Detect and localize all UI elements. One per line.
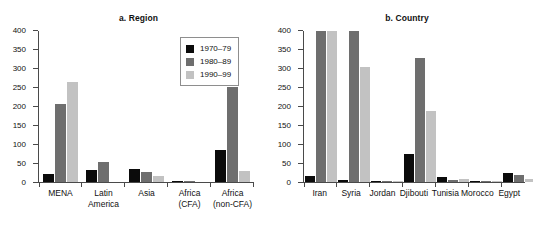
y-tick-label: 300 [13, 64, 26, 73]
y-tick: 0 [298, 182, 303, 183]
y-tick-label: 350 [13, 45, 26, 54]
y-tick-label: 300 [278, 64, 291, 73]
bar [98, 162, 109, 182]
bar [327, 31, 337, 182]
y-tick-label: 0 [22, 178, 26, 187]
bar [305, 176, 315, 182]
bar [415, 58, 425, 182]
y-tick: 250 [298, 87, 303, 88]
y-tick-label: 400 [13, 26, 26, 35]
y-tick-label: 200 [13, 102, 26, 111]
y-tick: 400 [298, 30, 303, 31]
y-tick: 100 [33, 144, 38, 145]
bar [215, 150, 226, 182]
bar [43, 174, 54, 182]
bar [514, 175, 524, 182]
bar [459, 179, 469, 182]
y-tick: 400 [33, 30, 38, 31]
y-tick-label: 250 [278, 83, 291, 92]
legend-label: 1990–99 [200, 70, 231, 79]
x-axis-label: Egypt [494, 188, 525, 199]
y-tick: 50 [33, 163, 38, 164]
y-tick: 350 [298, 49, 303, 50]
y-tick-label: 50 [17, 159, 26, 168]
x-axis-label: Syria [335, 188, 366, 199]
bar [371, 181, 381, 182]
panel-region: a. Region 050100150200250300350400 MENAL… [0, 0, 267, 237]
bar-group [39, 31, 82, 182]
bar-group [337, 31, 370, 182]
x-axis-label: Africa (non-CFA) [211, 188, 254, 210]
bar [153, 176, 164, 182]
bar-group [125, 31, 168, 182]
legend-swatch-1970-79-icon [186, 45, 194, 53]
bar-group [370, 31, 403, 182]
y-tick-label: 250 [13, 83, 26, 92]
bar-group [304, 31, 337, 182]
legend-row: 1980–89 [186, 55, 231, 68]
bar [470, 181, 480, 182]
panel-a-legend: 1970–79 1980–89 1990–99 [180, 37, 239, 86]
y-tick: 150 [33, 125, 38, 126]
bar [55, 104, 66, 182]
bar [86, 170, 97, 182]
panel-a-x-labels: MENALatin AmericaAsiaAfrica (CFA)Africa … [39, 188, 254, 210]
bar [525, 179, 533, 182]
y-tick-label: 150 [278, 121, 291, 130]
x-axis-label: Jordan [367, 188, 398, 199]
x-axis-label: MENA [39, 188, 82, 210]
bar [503, 173, 513, 182]
bar [141, 172, 152, 182]
y-tick: 200 [33, 106, 38, 107]
bar-group [469, 31, 502, 182]
bar [393, 181, 403, 182]
panel-a-title: a. Region [0, 13, 267, 23]
y-tick: 250 [33, 87, 38, 88]
panel-country: b. Country 050100150200250300350400 Iran… [267, 0, 533, 237]
bar-group [82, 31, 125, 182]
y-tick-label: 400 [278, 26, 291, 35]
bar [360, 67, 370, 182]
bar-group [436, 31, 469, 182]
legend-swatch-1990-99-icon [186, 71, 194, 79]
y-tick-label: 0 [287, 178, 291, 187]
x-axis-label: Asia [125, 188, 168, 210]
y-tick: 300 [33, 68, 38, 69]
legend-row: 1990–99 [186, 68, 231, 81]
y-tick: 200 [298, 106, 303, 107]
bar [448, 180, 458, 182]
panel-a-x-axis [38, 182, 254, 183]
x-axis-label: Latin America [82, 188, 125, 210]
bar-group [403, 31, 436, 182]
y-tick-label: 100 [13, 140, 26, 149]
bar [426, 111, 436, 182]
x-axis-label: Iran [304, 188, 335, 199]
y-tick: 100 [298, 144, 303, 145]
x-axis-label: Djibouti [398, 188, 429, 199]
bar [67, 82, 78, 182]
y-tick: 300 [298, 68, 303, 69]
y-tick-label: 200 [278, 102, 291, 111]
y-tick: 350 [33, 49, 38, 50]
bar [172, 181, 183, 182]
bar [129, 169, 140, 182]
y-tick-label: 350 [278, 45, 291, 54]
bar [227, 87, 238, 182]
x-axis-label: Tunisia [430, 188, 461, 199]
y-tick-label: 100 [278, 140, 291, 149]
x-axis-label: Africa (CFA) [168, 188, 211, 210]
bar-group [502, 31, 533, 182]
panel-b-plot-area: 050100150200250300350400 [303, 31, 525, 183]
panel-b-x-labels: IranSyriaJordanDjiboutiTunisiaMoroccoEgy… [304, 188, 525, 199]
y-tick: 50 [298, 163, 303, 164]
bar [184, 181, 195, 182]
figure-two-panel-bar-charts: a. Region 050100150200250300350400 MENAL… [0, 0, 533, 237]
legend-row: 1970–79 [186, 42, 231, 55]
y-tick-label: 50 [282, 159, 291, 168]
x-axis-label: Morocco [461, 188, 494, 199]
bar [437, 177, 447, 182]
legend-label: 1980–89 [200, 57, 231, 66]
legend-label: 1970–79 [200, 44, 231, 53]
y-tick: 150 [298, 125, 303, 126]
bar [481, 181, 491, 182]
